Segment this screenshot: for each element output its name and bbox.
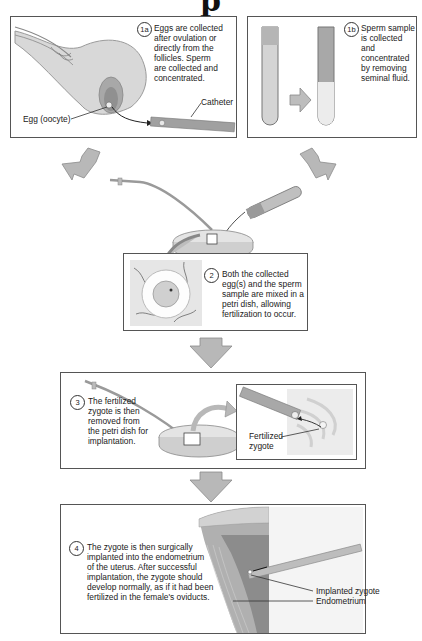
label-line: Fertilized — [249, 431, 283, 441]
caption-line: sample are mixed in a — [222, 289, 304, 299]
step-number-badge: 4 — [69, 541, 84, 556]
caption-line: removed from — [88, 416, 148, 426]
label-line: zygote — [249, 441, 283, 451]
caption-line: directly from the — [154, 43, 223, 53]
step-4-caption: The zygote is then surgically implanted … — [87, 542, 213, 602]
caption-line: petri dish, allowing — [222, 299, 304, 309]
step-3-caption: The fertilized zygote is then removed fr… — [88, 396, 148, 446]
caption-line: by removing — [361, 63, 416, 73]
step-1b-caption: Sperm sample is collected and concentrat… — [361, 23, 416, 83]
implanted-zygote-label: Implanted zygote — [316, 586, 380, 596]
endometrium-label: Endometrium — [316, 596, 366, 606]
egg-oocyte-label: Egg (oocyte) — [23, 114, 70, 124]
title-fragment: p — [200, 0, 221, 16]
catheter-label: Catheter — [201, 97, 233, 107]
caption-line: fertilized in the female's oviducts. — [87, 592, 213, 602]
step-3-panel: 3 The fertilized zygote is then removed … — [60, 372, 366, 469]
caption-line: develop normally, as if it had been — [87, 582, 213, 592]
caption-line: follicles. Sperm — [154, 53, 223, 63]
caption-line: is collected and — [361, 33, 416, 53]
caption-line: The fertilized — [88, 396, 148, 406]
arrow-down-left-icon — [300, 148, 336, 180]
step-1a-caption: Eggs are collected after ovulation or di… — [154, 23, 223, 83]
caption-line: zygote is then — [88, 406, 148, 416]
caption-line: of the uterus. After successful — [87, 562, 213, 572]
zygote-inset: Fertilized zygote — [236, 384, 357, 460]
step-4-panel: 4 The zygote is then surgically implante… — [60, 504, 366, 634]
caption-line: The zygote is then surgically — [87, 542, 213, 552]
fertilized-zygote-label: Fertilized zygote — [249, 431, 283, 451]
caption-line: are collected and — [154, 63, 223, 73]
caption-line: egg(s) and the sperm — [222, 279, 304, 289]
caption-line: concentrated — [361, 53, 416, 63]
caption-line: fertilization to occur. — [222, 309, 304, 319]
caption-line: seminal fluid. — [361, 73, 416, 83]
step-number-badge: 2 — [204, 268, 219, 283]
arrow-down-right-icon — [62, 148, 100, 180]
caption-line: after ovulation or — [154, 33, 223, 43]
combine-scene — [0, 138, 422, 258]
caption-line: Both the collected — [222, 269, 304, 279]
arrow-down-icon — [188, 472, 234, 504]
step-number-badge: 3 — [70, 395, 85, 410]
step-number-badge: 1a — [137, 22, 152, 37]
caption-line: implanted into the endometrium — [87, 552, 213, 562]
arrow-down-icon — [188, 338, 234, 370]
caption-line: Sperm sample — [361, 23, 416, 33]
caption-line: implantation, the zygote should — [87, 572, 213, 582]
step-1a-panel: 1a Eggs are collected after ovulation or… — [10, 16, 237, 138]
caption-line: the petri dish for — [88, 426, 148, 436]
step-number-badge: 1b — [344, 22, 359, 37]
step-2-panel: 2 Both the collected egg(s) and the sper… — [123, 253, 308, 331]
step-1b-panel: 1b Sperm sample is collected and concent… — [247, 16, 417, 138]
caption-line: Eggs are collected — [154, 23, 223, 33]
caption-line: concentrated. — [154, 73, 223, 83]
step-2-caption: Both the collected egg(s) and the sperm … — [222, 269, 304, 319]
caption-line: implantation. — [88, 436, 148, 446]
